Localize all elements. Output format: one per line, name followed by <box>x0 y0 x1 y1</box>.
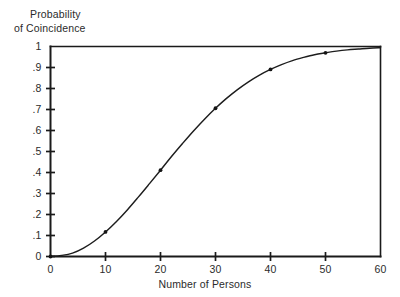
y-tick-label-.8: .8 <box>33 82 42 94</box>
x-tick-label-50: 50 <box>320 263 332 275</box>
chart-background <box>0 0 400 297</box>
data-point-x20 <box>159 168 163 172</box>
probability-of-coincidence-chart: 0.1.2.3.4.5.6.7.8.91 0102030405060 Proba… <box>0 0 400 297</box>
x-axis-title: Number of Persons <box>158 278 251 290</box>
x-tick-label-0: 0 <box>48 263 54 275</box>
x-tick-label-20: 20 <box>155 263 167 275</box>
data-point-x40 <box>269 67 273 71</box>
x-tick-label-30: 30 <box>210 263 222 275</box>
x-tick-label-60: 60 <box>375 263 387 275</box>
data-point-x50 <box>324 51 328 55</box>
y-tick-label-0: 0 <box>36 250 42 262</box>
data-point-x0 <box>49 255 53 259</box>
y-tick-label-.9: .9 <box>33 61 42 73</box>
data-point-x10 <box>104 230 108 234</box>
y-tick-label-.1: .1 <box>33 229 42 241</box>
y-axis-title-line-2: of Coincidence <box>14 22 86 34</box>
y-axis-title-line-1: Probability <box>30 8 81 20</box>
x-tick-label-10: 10 <box>100 263 112 275</box>
data-point-x30 <box>214 106 218 110</box>
y-tick-label-.2: .2 <box>33 208 42 220</box>
y-tick-label-1: 1 <box>36 40 42 52</box>
y-tick-label-.7: .7 <box>33 103 42 115</box>
y-tick-label-.5: .5 <box>33 145 42 157</box>
y-tick-label-.4: .4 <box>33 166 42 178</box>
y-tick-label-.3: .3 <box>33 187 42 199</box>
y-tick-label-.6: .6 <box>33 124 42 136</box>
x-tick-label-40: 40 <box>265 263 277 275</box>
chart-container: 0.1.2.3.4.5.6.7.8.91 0102030405060 Proba… <box>0 0 400 297</box>
